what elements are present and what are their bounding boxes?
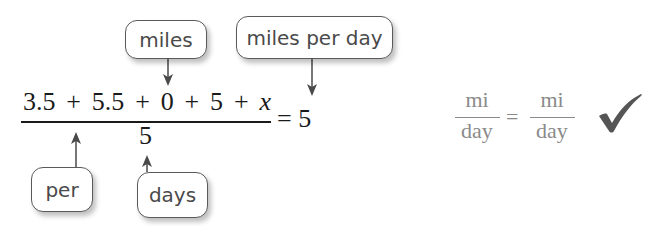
- unit-equals-sign: =: [506, 104, 518, 130]
- term-5-5: 5.5: [92, 87, 125, 117]
- equation-numerator: 3.5 + 5.5 + 0 + 5 + x: [23, 87, 271, 117]
- plus-sign: +: [234, 87, 249, 117]
- equation-rhs: = 5: [277, 104, 311, 134]
- unit-left-numerator: mi: [455, 88, 499, 112]
- plus-sign: +: [185, 87, 200, 117]
- equation-denominator: 5: [139, 121, 152, 151]
- rhs-value: 5: [298, 104, 311, 133]
- days-callout-label: days: [149, 183, 196, 207]
- term-3-5: 3.5: [23, 87, 56, 117]
- miles-per-day-callout-label: miles per day: [246, 26, 382, 50]
- term-0: 0: [161, 87, 174, 117]
- equals-sign: =: [277, 104, 292, 133]
- unit-right-numerator: mi: [530, 88, 574, 112]
- per-callout: per: [31, 167, 93, 212]
- miles-callout: miles: [125, 20, 207, 59]
- miles-callout-label: miles: [139, 28, 192, 52]
- plus-sign: +: [135, 87, 150, 117]
- term-x: x: [259, 87, 271, 117]
- days-callout: days: [137, 172, 208, 218]
- checkmark-icon: [596, 92, 644, 134]
- miles-per-day-callout: miles per day: [236, 16, 393, 59]
- per-callout-label: per: [45, 178, 78, 202]
- term-5: 5: [210, 87, 223, 117]
- unit-right-denominator: day: [530, 118, 574, 144]
- plus-sign: +: [66, 87, 81, 117]
- unit-left-denominator: day: [455, 118, 499, 144]
